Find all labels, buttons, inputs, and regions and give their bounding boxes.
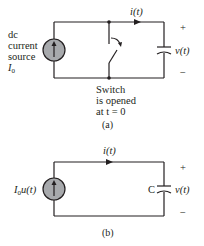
caption-a: (a) [102,119,113,130]
source-symbol-b: I0u(t) [14,184,36,199]
switch-blade [109,50,117,63]
junction-dot-top [107,20,111,24]
current-arrow-icon-b [106,159,113,165]
circuit-a [54,22,171,78]
plus-sign-b: + [180,162,186,173]
voltage-label-a: v(t) [175,45,190,56]
switch-note-line-2: is opened [96,95,136,106]
plus-sign-a: + [180,22,186,33]
minus-sign-a: − [180,67,186,78]
junction-dot-bottom [107,76,111,80]
current-label-a: i(t) [130,6,143,17]
switch-arrow-head-icon [118,42,122,47]
source-label-line-1: dc [8,29,38,40]
source-label-line-2: current [8,40,38,51]
minus-sign-b: − [180,207,186,218]
voltage-label-b: v(t) [175,184,190,195]
caption-b: (b) [102,227,114,238]
switch-note-line-1: Switch [96,84,136,95]
switch-note: Switch is opened at t = 0 [96,84,136,117]
source-label-line-3: source [8,51,38,62]
current-label-b: i(t) [103,145,116,156]
switch-note-line-3: at t = 0 [96,106,136,117]
source-description-a: dc current source I0 [8,29,38,77]
capacitor-label-b: C [148,184,155,195]
source-symbol-a: I0 [8,62,38,77]
current-arrow-icon-a [134,19,141,25]
